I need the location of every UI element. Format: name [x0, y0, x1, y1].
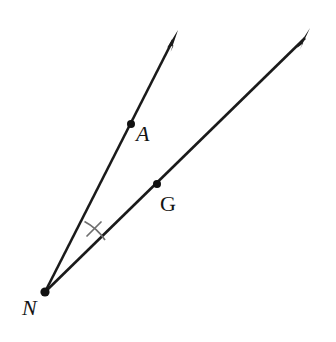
point-label-a: A — [134, 121, 150, 146]
ray-na-line — [45, 40, 173, 292]
point-label-n: N — [21, 295, 38, 320]
ray-ng — [45, 28, 310, 292]
geometry-diagram: N A G — [0, 0, 336, 342]
point-dot-a — [127, 120, 135, 128]
point-label-g: G — [160, 191, 176, 216]
ray-ng-line — [45, 38, 305, 292]
point-dot-g — [153, 180, 161, 188]
ray-ng-arrowhead-icon — [297, 28, 310, 50]
ray-na — [45, 30, 178, 292]
point-dot-n — [40, 287, 49, 296]
geometry-canvas: N A G — [0, 0, 336, 342]
